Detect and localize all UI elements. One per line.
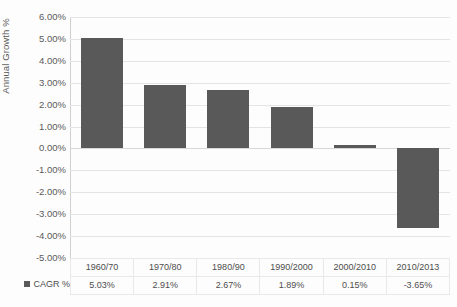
- table-cell-category: 1980/90: [197, 259, 260, 277]
- legend-label: CAGR %: [33, 279, 70, 289]
- legend-swatch-icon: [24, 281, 30, 287]
- table-cell-value: 5.03%: [71, 277, 134, 295]
- chart-container: Annual Growth % 6.00%5.00%4.00%3.00%2.00…: [0, 0, 457, 307]
- y-axis-tick-label: 1.00%: [39, 122, 66, 132]
- table-cell-category: 2010/2013: [386, 259, 449, 277]
- bar-series-cagr: [70, 17, 450, 258]
- bar: [271, 107, 313, 148]
- y-axis-tick-label: 4.00%: [39, 56, 66, 66]
- y-axis-tick-label: -3.00%: [36, 209, 66, 219]
- table-cell-value: -3.65%: [386, 277, 449, 295]
- table-row: 1960/701970/801980/901990/20002000/20102…: [71, 259, 450, 277]
- table-cell-value: 2.91%: [134, 277, 197, 295]
- legend: CAGR %: [2, 275, 70, 292]
- bar: [207, 90, 249, 148]
- table-cell-value: 2.67%: [197, 277, 260, 295]
- y-axis-tick-label: -1.00%: [36, 165, 66, 175]
- y-axis-tick-label: -4.00%: [36, 231, 66, 241]
- y-axis-tick-label: 2.00%: [39, 100, 66, 110]
- table-cell-category: 1960/70: [71, 259, 134, 277]
- bar: [81, 38, 123, 148]
- plot-area: [70, 17, 450, 258]
- bar: [334, 145, 376, 148]
- table-row: 5.03%2.91%2.67%1.89%0.15%-3.65%: [71, 277, 450, 295]
- y-axis-tick-label: 5.00%: [39, 34, 66, 44]
- table-cell-category: 1990/2000: [260, 259, 323, 277]
- y-axis-tick-label: 3.00%: [39, 78, 66, 88]
- bar: [397, 148, 439, 228]
- y-axis-tick-label: 0.00%: [39, 143, 66, 153]
- y-axis-tick-label: 6.00%: [39, 12, 66, 22]
- table-cell-value: 1.89%: [260, 277, 323, 295]
- table-cell-category: 2000/2010: [323, 259, 386, 277]
- y-axis-tick-label: -2.00%: [36, 187, 66, 197]
- bar: [144, 85, 186, 149]
- table-cell-value: 0.15%: [323, 277, 386, 295]
- data-table: 1960/701970/801980/901990/20002000/20102…: [70, 258, 450, 295]
- y-axis-tick-labels: 6.00%5.00%4.00%3.00%2.00%1.00%0.00%-1.00…: [0, 0, 70, 307]
- y-axis-tick-label: -5.00%: [36, 253, 66, 263]
- table-cell-category: 1970/80: [134, 259, 197, 277]
